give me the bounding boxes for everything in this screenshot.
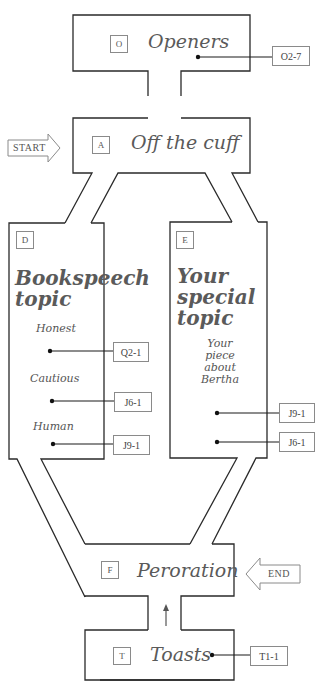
peroration-title: Peroration	[137, 559, 239, 581]
off-the-cuff-title: Off the cuff	[131, 131, 240, 153]
openers-ref[interactable]: O2-7	[272, 46, 310, 66]
peroration-shape	[85, 544, 234, 630]
bookspeech-ref-human[interactable]: J9-1	[113, 435, 150, 455]
bookspeech-letter-box: D	[16, 231, 34, 249]
toasts-letter-box: T	[113, 647, 131, 665]
up-arrow-icon	[163, 604, 169, 626]
bookspeech-ref-cautious[interactable]: J6-1	[114, 392, 152, 412]
off-the-cuff-letter-box: A	[92, 136, 110, 154]
peroration-letter-box: F	[101, 561, 119, 579]
bookspeech-item-honest: Honest	[36, 322, 76, 335]
toasts-ref[interactable]: T1-1	[250, 646, 288, 666]
special-topic-ref-2[interactable]: J6-1	[279, 432, 315, 452]
special-topic-title: Your special topic	[177, 266, 257, 329]
special-topic-letter-box: E	[176, 231, 194, 249]
bookspeech-title: Bookspeech topic	[15, 268, 105, 310]
end-label: END	[268, 568, 290, 579]
start-label: START	[13, 142, 46, 153]
toasts-title: Toasts	[150, 643, 211, 665]
openers-letter-box: O	[110, 35, 128, 53]
inner-upper-trapezoid	[91, 173, 232, 223]
special-topic-ref-1[interactable]: J9-1	[279, 403, 315, 423]
bookspeech-ref-honest[interactable]: Q2-1	[113, 342, 149, 362]
openers-shape	[73, 15, 250, 96]
openers-title: Openers	[148, 30, 229, 52]
special-topic-note: Your piece about Bertha	[198, 338, 242, 386]
bookspeech-item-cautious: Cautious	[30, 372, 79, 385]
flow-diagram	[0, 0, 324, 693]
bookspeech-item-human: Human	[33, 420, 74, 433]
